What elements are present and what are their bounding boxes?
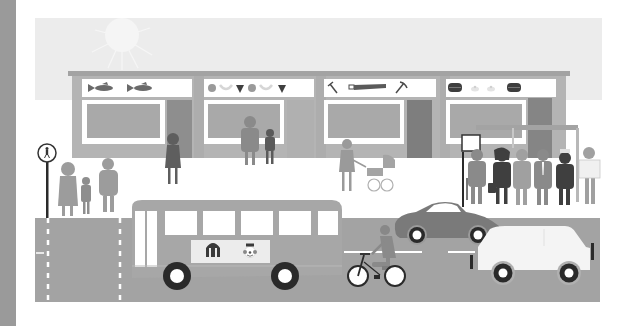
apple-icon	[208, 84, 216, 92]
shop-sign-board	[204, 79, 314, 97]
child-figure	[81, 177, 91, 214]
apple-icon	[248, 84, 256, 92]
car-wheel	[491, 261, 515, 285]
shop-sign-board	[446, 79, 556, 97]
cake-icon	[507, 83, 521, 92]
shop-door	[407, 100, 432, 158]
street-scene-illustration	[0, 0, 632, 326]
bus-wheel	[271, 262, 299, 290]
bus-wheel	[163, 262, 191, 290]
pedestrian-crossing-sign	[38, 144, 56, 218]
car-wheel	[557, 261, 581, 285]
shop-building	[68, 71, 570, 158]
woman-walking-figure	[165, 133, 181, 184]
building-roof	[68, 71, 570, 76]
left-edge-bar	[0, 0, 16, 326]
cake-icon	[448, 83, 462, 92]
woman-figure	[58, 162, 78, 216]
car-wheel	[407, 225, 427, 245]
pedestrian-group-left	[58, 158, 118, 216]
bus-advertisement	[191, 240, 270, 263]
man-figure	[99, 158, 118, 212]
man-reading-newspaper	[579, 147, 600, 204]
pram-icon	[367, 155, 395, 191]
shop-door	[287, 100, 314, 158]
